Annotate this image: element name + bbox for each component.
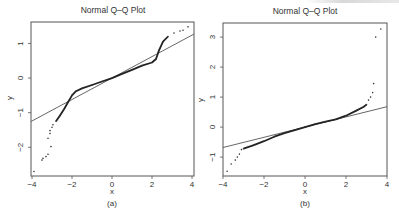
data-point <box>51 126 53 128</box>
data-point <box>55 121 57 123</box>
data-point <box>59 115 61 117</box>
y-axis-label: y <box>196 98 205 102</box>
data-point <box>273 136 275 138</box>
data-point <box>41 159 43 161</box>
data-point <box>253 144 255 146</box>
data-point <box>335 119 337 121</box>
x-tick-label: −2 <box>67 180 77 189</box>
data-point <box>167 36 169 38</box>
data-point <box>230 163 232 165</box>
data-point <box>368 99 370 101</box>
data-point <box>101 81 103 83</box>
data-point <box>49 130 51 132</box>
data-point <box>50 146 52 148</box>
data-point <box>141 65 143 67</box>
data-point <box>239 153 241 155</box>
data-point <box>42 158 44 160</box>
data-point <box>162 41 164 43</box>
data-point <box>151 62 153 64</box>
x-axis-label: x <box>110 187 114 196</box>
data-point <box>47 153 49 155</box>
data-point <box>52 124 54 126</box>
data-point <box>67 101 69 103</box>
data-point <box>47 137 49 139</box>
data-point <box>366 104 368 106</box>
chart-title: Normal Q–Q Plot <box>81 5 146 15</box>
plot-frame <box>31 22 194 176</box>
data-point <box>294 129 296 131</box>
data-point <box>235 159 237 161</box>
x-axis-label: x <box>303 187 307 196</box>
data-point <box>304 126 306 128</box>
data-point <box>173 32 175 34</box>
data-point <box>226 170 228 172</box>
qq-panel-b: −4−2024−10123Normal Q–Q Plotxy(b) <box>196 6 390 208</box>
data-point <box>49 133 51 135</box>
data-point <box>237 156 239 158</box>
data-point <box>243 148 245 150</box>
data-point <box>372 92 374 94</box>
qq-panel-a: −4−2024−2−101Normal Q–Q Plotxy(a) <box>5 5 195 208</box>
y-tick-label: 0 <box>16 75 25 80</box>
data-point <box>75 90 77 92</box>
x-tick-label: −2 <box>259 180 269 189</box>
x-tick-label: 4 <box>190 180 195 189</box>
y-tick-label: 1 <box>16 41 25 46</box>
data-point <box>345 115 347 117</box>
data-point <box>81 88 83 90</box>
data-point <box>91 84 93 86</box>
y-tick-label: 3 <box>208 34 217 39</box>
x-tick-label: 2 <box>150 180 155 189</box>
data-point <box>111 77 113 79</box>
chart-title: Normal Q–Q Plot <box>273 6 338 16</box>
y-tick-label: 2 <box>208 64 217 69</box>
data-point <box>155 58 157 60</box>
y-tick-label: 1 <box>208 94 217 99</box>
plot-frame <box>223 23 387 176</box>
y-axis-label: y <box>5 96 14 100</box>
panel-caption: (b) <box>300 199 310 208</box>
y-tick-label: −1 <box>208 152 217 162</box>
data-point <box>182 30 184 32</box>
x-tick-label: −4 <box>218 180 228 189</box>
y-tick-label: −1 <box>16 108 25 118</box>
data-point <box>63 108 65 110</box>
x-tick-label: −4 <box>27 180 37 189</box>
data-point <box>380 28 382 30</box>
data-point <box>375 36 377 38</box>
data-point <box>314 123 316 125</box>
data-point <box>179 30 181 32</box>
data-point <box>45 156 47 158</box>
data-point <box>363 106 365 108</box>
panel-caption: (a) <box>107 199 117 208</box>
data-point <box>263 140 265 142</box>
data-point <box>241 149 243 151</box>
qq-plot-figure: −4−2024−2−101Normal Q–Q Plotxy(a)−4−2024… <box>0 0 399 218</box>
data-point <box>71 95 73 97</box>
data-point <box>121 73 123 75</box>
data-point <box>325 121 327 123</box>
data-point <box>131 69 133 71</box>
data-point <box>355 110 357 112</box>
data-point <box>33 171 35 173</box>
x-tick-label: 2 <box>344 180 349 189</box>
x-tick-label: 4 <box>385 180 390 189</box>
y-tick-label: 0 <box>208 124 217 129</box>
data-point <box>187 26 189 28</box>
data-point <box>284 132 286 134</box>
data-point <box>158 50 160 52</box>
sample-quantile-curve <box>56 37 168 122</box>
data-point <box>370 96 372 98</box>
y-tick-label: −2 <box>16 142 25 152</box>
data-point <box>373 83 375 85</box>
